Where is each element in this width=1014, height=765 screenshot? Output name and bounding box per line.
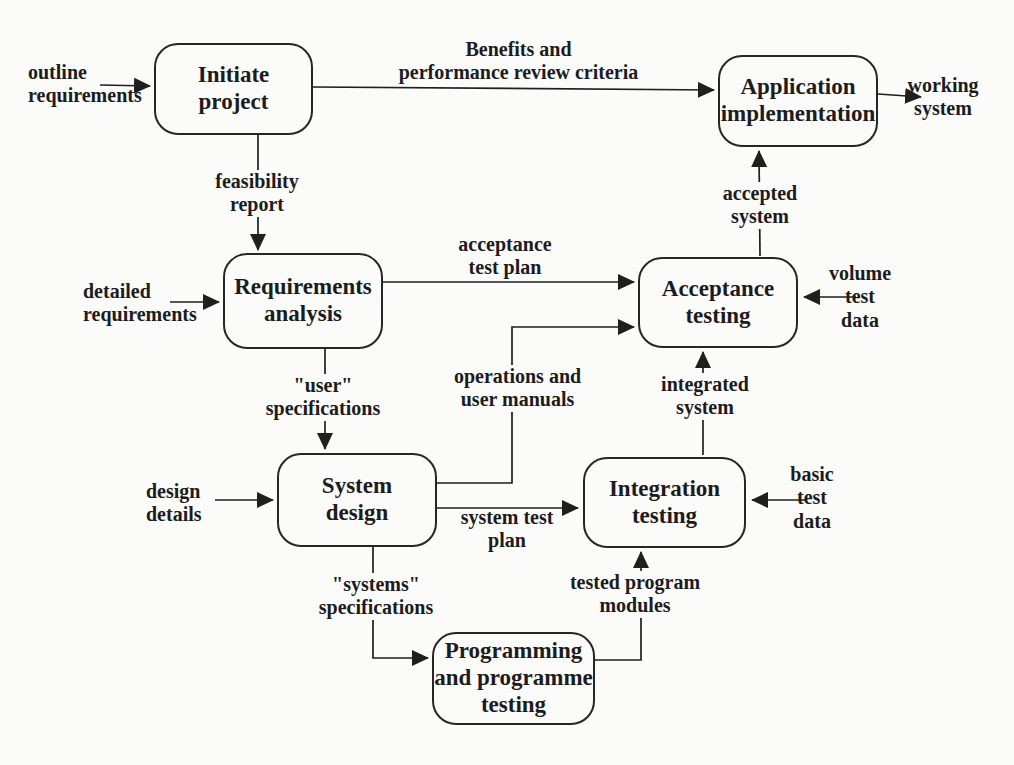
edge-label-design-details: design details	[146, 480, 230, 527]
node-initiate-project: Initiate project	[154, 43, 313, 135]
node-requirements-analysis: Requirements analysis	[223, 253, 383, 349]
node-system-design: System design	[277, 453, 437, 547]
edge-label-working-system: working system	[901, 74, 985, 121]
edge-label-system-test-plan: system test plan	[437, 506, 577, 553]
edge-label-integrated-system: integrated system	[643, 373, 767, 420]
edge-label-volume-test-data: volume test data	[824, 262, 896, 332]
node-application-implementation: Application implementation	[718, 55, 878, 147]
edge-label-systems-specifications: "systems" specifications	[304, 573, 448, 620]
node-programming-and-programme-testing: Programming and programme testing	[432, 632, 595, 725]
node-acceptance-testing: Acceptance testing	[638, 257, 798, 348]
edge-label-basic-test-data: basic test data	[781, 463, 843, 533]
edge-label-operations-and-user-manuals: operations and user manuals	[435, 365, 600, 412]
node-integration-testing: Integration testing	[583, 457, 746, 548]
edge-label-feasibility-report: feasibility report	[198, 170, 316, 217]
edge-label-outline-requirements: outline requirements	[28, 61, 150, 108]
edge-label-user-specifications: "user" specifications	[255, 374, 391, 421]
edge-label-acceptance-test-plan: acceptance test plan	[435, 233, 575, 280]
edge-label-accepted-system: accepted system	[700, 182, 820, 229]
edge-label-tested-program-modules: tested program modules	[563, 571, 707, 618]
flow-diagram: Initiate project Application implementat…	[0, 0, 1014, 765]
arrow-initiate-to-application	[313, 87, 714, 90]
edge-label-benefits-and-performance-review-criteria: Benefits and performance review criteria	[376, 38, 661, 85]
edge-label-detailed-requirements: detailed requirements	[83, 280, 201, 327]
